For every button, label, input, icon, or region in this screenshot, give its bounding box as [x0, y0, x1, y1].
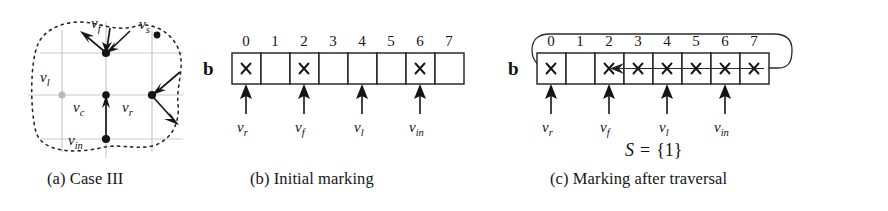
- arrow-vf-out-line: [86, 36, 104, 51]
- index-label-5: 5: [692, 33, 700, 49]
- arrow-into-vr: [152, 72, 180, 95]
- pointer-vr: vr: [237, 84, 252, 138]
- node-vin[interactable]: [102, 135, 110, 143]
- panel-case-iii: vf vs vl vc vr vin: [0, 0, 215, 160]
- array-pointers: vr vf vl vin: [542, 84, 731, 138]
- index-label-2: 2: [300, 33, 308, 49]
- pointer-label-vl: vl: [354, 119, 364, 138]
- node-label-vr: vr: [122, 99, 134, 118]
- pointer-label-vf: vf: [600, 119, 612, 138]
- after-traversal-array: b 0 1 2 3 4 5 6 7: [500, 0, 888, 160]
- pointer-vr: vr: [542, 84, 557, 138]
- set-name: S: [625, 140, 634, 160]
- index-label-6: 6: [721, 33, 729, 49]
- node-label-vs: vs: [139, 16, 150, 35]
- pointer-vf: vf: [295, 84, 310, 138]
- index-label-7: 7: [750, 33, 758, 49]
- index-label-4: 4: [358, 33, 366, 49]
- panel-initial-marking: b 0 1 2 3 4 5 6 7: [195, 0, 485, 160]
- caption-panel-a: (a) Case III: [47, 169, 123, 189]
- array-cell-4[interactable]: [348, 53, 377, 84]
- pointer-label-vf: vf: [295, 119, 307, 138]
- index-label-3: 3: [634, 33, 642, 49]
- pointer-label-vin: vin: [409, 119, 424, 138]
- initial-marking-array: b 0 1 2 3 4 5 6 7: [195, 0, 485, 160]
- pointer-vin: vin: [409, 84, 426, 138]
- array-cell-1[interactable]: [261, 53, 290, 84]
- node-vr[interactable]: [148, 91, 156, 99]
- pointer-vl: vl: [354, 84, 368, 138]
- node-label-vf: vf: [91, 15, 103, 34]
- index-label-0: 0: [242, 33, 250, 49]
- node-vf[interactable]: [102, 49, 110, 57]
- pointer-label-vin: vin: [714, 119, 729, 138]
- pointer-vl: vl: [659, 84, 673, 138]
- node-label-vl: vl: [40, 69, 50, 88]
- arrow-vr-out: [154, 98, 179, 125]
- index-label-7: 7: [445, 33, 453, 49]
- array-cells: [232, 53, 464, 84]
- node-vs[interactable]: [154, 32, 161, 39]
- array-cell-7[interactable]: [435, 53, 464, 84]
- index-label-3: 3: [329, 33, 337, 49]
- set-annotation: S={1}: [625, 140, 682, 160]
- array-cell-5[interactable]: [377, 53, 406, 84]
- array-name-label: b: [508, 58, 519, 79]
- index-label-1: 1: [576, 33, 584, 49]
- node-label-vin: vin: [68, 132, 83, 151]
- set-value: {1}: [656, 140, 682, 160]
- arrow-vr-out-line: [154, 98, 172, 118]
- array-index-labels: 0 1 2 3 4 5 6 7: [242, 33, 453, 49]
- index-label-4: 4: [663, 33, 671, 49]
- arrow-vr-in-line: [159, 72, 180, 90]
- array-cell-1[interactable]: [566, 53, 595, 84]
- array-index-labels: 0 1 2 3 4 5 6 7: [547, 33, 758, 49]
- index-label-1: 1: [271, 33, 279, 49]
- figure-root: vf vs vl vc vr vin b 0 1 2 3 4 5 6 7: [0, 0, 888, 211]
- pointer-label-vr: vr: [237, 119, 249, 138]
- panel-marking-after-traversal: b 0 1 2 3 4 5 6 7: [500, 0, 888, 160]
- index-label-2: 2: [605, 33, 613, 49]
- node-vc[interactable]: [102, 91, 110, 99]
- array-pointers: vr vf vl vin: [237, 84, 426, 138]
- array-cell-3[interactable]: [319, 53, 348, 84]
- index-label-0: 0: [547, 33, 555, 49]
- caption-row: (a) Case III (b) Initial marking (c) Mar…: [0, 163, 888, 203]
- index-label-6: 6: [416, 33, 424, 49]
- set-equals: =: [640, 140, 650, 160]
- array-name-label: b: [203, 58, 214, 79]
- pointer-vf: vf: [600, 84, 615, 138]
- index-label-5: 5: [387, 33, 395, 49]
- graph-edges: [102, 95, 110, 139]
- pointer-label-vl: vl: [659, 119, 669, 138]
- caption-panel-c: (c) Marking after traversal: [550, 169, 727, 189]
- set-annotation-text: S={1}: [625, 140, 682, 160]
- case-iii-diagram: vf vs vl vc vr vin: [0, 0, 215, 160]
- node-label-vc: vc: [73, 99, 85, 118]
- arrow-vf-out: [80, 31, 104, 51]
- caption-panel-b: (b) Initial marking: [250, 169, 374, 189]
- pointer-vin: vin: [714, 84, 731, 138]
- node-vl[interactable]: [58, 91, 65, 98]
- pointer-label-vr: vr: [542, 119, 554, 138]
